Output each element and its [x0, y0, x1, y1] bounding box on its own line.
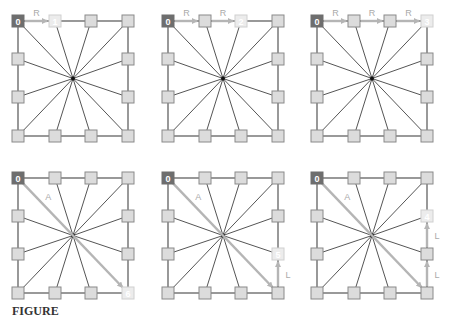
move-label: L	[285, 270, 290, 280]
grid-node	[85, 130, 97, 142]
figure-caption: FIGURE	[12, 304, 59, 319]
start-node-label: 0	[165, 174, 170, 184]
grid-node	[421, 248, 433, 260]
move-label: R	[405, 8, 412, 18]
target-node-label: 1	[52, 17, 57, 27]
spoke-edge	[55, 79, 73, 137]
grid-node	[348, 130, 360, 142]
spoke-edge	[18, 79, 73, 137]
spoke-edge	[372, 21, 427, 79]
move-label: A	[344, 192, 350, 202]
target-node-label: 6	[125, 289, 130, 299]
spoke-edge	[73, 216, 128, 236]
move-label: L	[434, 270, 439, 280]
center-hub	[71, 77, 75, 81]
grid-node	[421, 130, 433, 142]
grid-node	[12, 53, 24, 65]
grid-node	[85, 287, 97, 299]
spoke-edge	[317, 79, 372, 137]
spoke-edge	[168, 21, 223, 79]
grid-node	[199, 15, 211, 27]
spoke-edge	[18, 236, 73, 294]
grid-node	[272, 15, 284, 27]
grid-node	[49, 172, 61, 184]
grid-node	[348, 172, 360, 184]
grid-node	[272, 210, 284, 222]
spoke-edge	[73, 178, 128, 236]
spoke-edge	[73, 79, 91, 137]
spoke-edge	[73, 178, 91, 236]
start-node-label: 0	[15, 174, 20, 184]
center-hub	[221, 77, 225, 81]
spoke-edge	[18, 59, 73, 79]
grid-node	[162, 287, 174, 299]
grid-node	[348, 15, 360, 27]
spoke-edge	[205, 21, 223, 79]
grid-node	[235, 130, 247, 142]
grid-node	[122, 248, 134, 260]
grid-node	[421, 91, 433, 103]
spoke-edge	[354, 79, 372, 137]
spoke-edge	[223, 216, 278, 236]
spoke-edge	[73, 79, 128, 137]
grid-node	[421, 53, 433, 65]
grid-node	[162, 248, 174, 260]
grid-node	[311, 91, 323, 103]
grid-node	[235, 287, 247, 299]
spoke-edge	[223, 21, 278, 79]
spoke-edge	[354, 236, 372, 294]
grid-node	[12, 130, 24, 142]
spoke-edge	[223, 178, 278, 236]
panel-3: RRR03	[311, 8, 433, 142]
grid-node	[85, 172, 97, 184]
grid-node	[85, 15, 97, 27]
move-label: R	[33, 8, 40, 18]
grid-node	[421, 287, 433, 299]
grid-node	[49, 130, 61, 142]
grid-node	[384, 130, 396, 142]
spoke-edge	[372, 59, 427, 79]
spoke-edge	[372, 178, 390, 236]
move-label: R	[220, 8, 227, 18]
grid-node	[348, 287, 360, 299]
panel-5: AL05	[162, 172, 291, 299]
grid-node	[122, 91, 134, 103]
spoke-edge	[205, 236, 223, 294]
spoke-edge	[18, 21, 73, 79]
spoke-edge	[73, 59, 128, 79]
spoke-edge	[168, 236, 223, 294]
spoke-edge	[168, 59, 223, 79]
spoke-edge	[73, 21, 91, 79]
grid-node	[235, 172, 247, 184]
grid-node	[199, 287, 211, 299]
move-label: R	[332, 8, 339, 18]
spoke-edge	[372, 178, 427, 236]
move-label: L	[434, 231, 439, 241]
grid-node	[311, 248, 323, 260]
panel-6: ALL04	[311, 172, 440, 299]
target-node-label: 2	[238, 17, 243, 27]
grid-node	[122, 210, 134, 222]
spoke-edge	[55, 21, 73, 79]
spoke-edge	[223, 79, 278, 137]
grid-node	[122, 15, 134, 27]
target-node-label: 5	[275, 250, 280, 260]
grid-node	[12, 210, 24, 222]
grid-node	[12, 287, 24, 299]
grid-node	[122, 172, 134, 184]
start-node-label: 0	[15, 17, 20, 27]
spoke-edge	[317, 236, 372, 294]
grid-node	[162, 91, 174, 103]
spoke-edge	[223, 79, 241, 137]
panel-4: A06	[12, 172, 134, 299]
spoke-edge	[372, 79, 390, 137]
grid-node	[311, 210, 323, 222]
panel-1: R01	[12, 8, 134, 142]
target-node-label: 3	[424, 17, 429, 27]
grid-node	[272, 91, 284, 103]
grid-node	[384, 287, 396, 299]
move-label: R	[369, 8, 376, 18]
grid-node	[162, 210, 174, 222]
grid-node	[49, 287, 61, 299]
